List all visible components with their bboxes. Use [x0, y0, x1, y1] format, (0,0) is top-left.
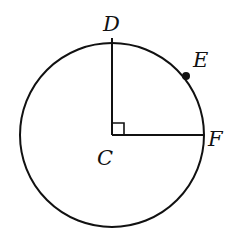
diagram-canvas: D E F C	[0, 0, 234, 238]
label-e: E	[192, 48, 208, 72]
label-f: F	[207, 127, 224, 151]
circle-diagram: D E F C	[0, 0, 234, 238]
right-angle-marker	[112, 123, 124, 135]
label-c: C	[97, 146, 113, 170]
point-e-dot	[182, 72, 190, 80]
label-d: D	[102, 12, 120, 36]
